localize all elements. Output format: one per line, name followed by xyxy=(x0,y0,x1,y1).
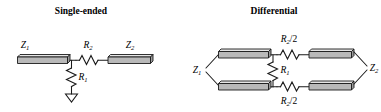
transmission-line-z1-top xyxy=(219,49,272,58)
shunt-resistor-r1 xyxy=(67,60,77,94)
series-resistor-r2 xyxy=(76,56,108,65)
label-r2-half-bottom: R2/2 xyxy=(280,96,298,107)
label-r2-half-top: R2/2 xyxy=(280,34,298,45)
label-z2-differential: Z2 xyxy=(370,63,379,74)
lead-z2-bottom xyxy=(354,70,367,84)
label-r2-single: R2 xyxy=(82,40,93,51)
panel-title-single-ended: Single-ended xyxy=(55,6,108,16)
label-z1-differential: Z1 xyxy=(193,65,202,76)
transmission-line-z1-bottom xyxy=(219,81,272,90)
circuit-figure: Single-ended Z1 R2 xyxy=(0,0,381,112)
lead-z2-top xyxy=(354,52,367,66)
transmission-line-z2-top xyxy=(309,49,354,58)
panel-title-differential: Differential xyxy=(251,6,298,16)
series-resistor-r2-half-top xyxy=(277,50,309,59)
lead-z1-bottom xyxy=(206,72,219,86)
ground-symbol xyxy=(66,94,78,102)
label-z1-single: Z1 xyxy=(21,40,30,51)
series-resistor-r2-half-bottom xyxy=(277,82,309,91)
panel-differential: Differential R2/2 xyxy=(193,6,379,107)
transmission-line-z2 xyxy=(108,55,153,64)
label-r1-differential: R1 xyxy=(279,65,289,76)
label-z2-single: Z2 xyxy=(126,40,135,51)
circuit-canvas: Single-ended Z1 R2 xyxy=(0,0,381,112)
panel-single-ended: Single-ended Z1 R2 xyxy=(18,6,154,102)
transmission-line-z2-bottom xyxy=(309,81,354,90)
label-r1-single: R1 xyxy=(77,72,87,83)
lead-z1-top xyxy=(206,54,219,68)
transmission-line-z1 xyxy=(18,55,71,64)
